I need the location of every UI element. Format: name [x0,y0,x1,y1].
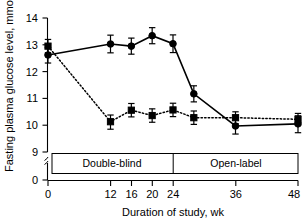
x-tick-label-12: 12 [104,188,116,200]
data-point-circle [170,40,177,47]
data-point-circle [107,41,114,48]
x-tick-label-24: 24 [167,188,179,200]
y-tick-group: 14 13 12 11 10 9 0 [26,12,48,186]
x-tick-label-20: 20 [146,188,158,200]
data-point-square [295,116,301,122]
fasting-plasma-glucose-chart: Fasting plasma glucose level, mmol/L 14 … [0,0,302,221]
data-point-square [45,43,51,49]
data-point-square [191,115,197,121]
y-axis-title: Fasting plasma glucose level, mmol/L [3,0,15,172]
y-tick-label-13: 13 [26,39,38,51]
x-tick-group: 0 12 16 20 24 36 48 [45,181,300,201]
data-point-circle [191,91,198,98]
data-point-square [170,107,176,113]
x-tick-label-36: 36 [230,188,242,200]
x-tick-label-16: 16 [125,188,137,200]
data-point-circle [149,32,156,39]
plot-data-layer [45,28,302,134]
y-tick-label-12: 12 [26,66,38,78]
phase-label-double-blind: Double-blind [83,157,142,169]
x-tick-label-48: 48 [288,188,300,200]
y-tick-label-11: 11 [27,92,38,104]
x-tick-label-0: 0 [45,188,51,200]
study-phase-bar: Double-blind Open-label [52,154,298,174]
data-point-square [128,107,134,113]
y-tick-label-0: 0 [32,174,38,186]
x-axis-title: Duration of study, wk [122,206,224,218]
data-point-square [232,115,238,121]
data-point-square [149,112,155,118]
y-tick-label-9: 9 [32,146,38,158]
data-point-circle [128,43,135,50]
y-tick-label-14: 14 [26,12,38,24]
chart-svg: Fasting plasma glucose level, mmol/L 14 … [0,0,302,221]
phase-label-open-label: Open-label [210,157,261,169]
data-point-square [107,119,113,125]
y-tick-label-10: 10 [26,119,38,131]
